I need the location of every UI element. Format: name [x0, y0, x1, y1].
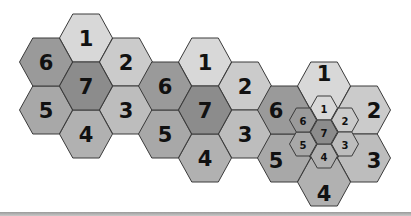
- hex-label-1: 1: [79, 27, 94, 51]
- small-hex-label-1: 1: [321, 104, 328, 115]
- hex-label-4: 4: [198, 147, 213, 171]
- cluster-1: 1234567: [20, 14, 153, 158]
- hex-label-6: 6: [269, 99, 284, 123]
- hex-label-7: 7: [79, 75, 94, 99]
- hex-label-3: 3: [119, 99, 134, 123]
- hex-label-5: 5: [269, 149, 284, 173]
- hexagon-cluster-diagram: 123456712345671234567123456: [0, 0, 411, 213]
- small-hex-label-2: 2: [342, 116, 349, 127]
- hex-label-4: 4: [317, 182, 332, 206]
- hex-label-1: 1: [198, 51, 213, 75]
- hex-label-7: 7: [198, 99, 213, 123]
- hex-label-3: 3: [367, 149, 382, 173]
- hex-label-5: 5: [39, 99, 54, 123]
- small-hex-label-7: 7: [321, 128, 328, 139]
- bottom-divider: [0, 212, 411, 216]
- hex-label-2: 2: [119, 51, 134, 75]
- small-hex-label-5: 5: [300, 140, 307, 151]
- small-hex-label-4: 4: [321, 152, 328, 163]
- hex-label-5: 5: [158, 123, 173, 147]
- cluster-3: 1234567123456: [258, 62, 391, 206]
- hex-label-2: 2: [238, 75, 253, 99]
- hex-label-2: 2: [367, 99, 382, 123]
- hex-label-1: 1: [317, 62, 332, 86]
- hex-label-6: 6: [39, 51, 54, 75]
- cluster-2: 1234567: [139, 38, 272, 182]
- small-hex-label-6: 6: [300, 116, 307, 127]
- hex-label-3: 3: [238, 123, 253, 147]
- hex-label-4: 4: [79, 123, 94, 147]
- hex-label-6: 6: [158, 75, 173, 99]
- small-hex-label-3: 3: [342, 140, 349, 151]
